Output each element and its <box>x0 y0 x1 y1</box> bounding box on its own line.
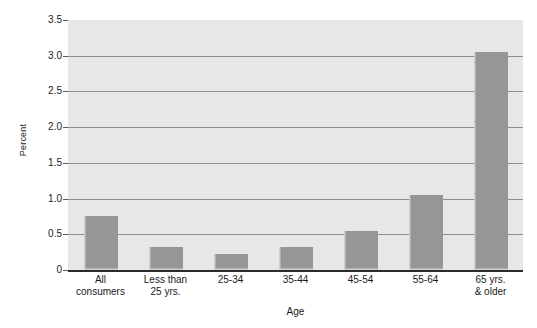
y-tick-label: 1.5 <box>48 158 62 168</box>
bar[interactable] <box>474 52 508 270</box>
y-axis-title: Percent <box>14 0 32 280</box>
bar[interactable] <box>84 216 118 270</box>
x-tick-label: 55-64 <box>393 274 458 286</box>
x-axis-line <box>68 270 523 272</box>
bar[interactable] <box>149 247 183 270</box>
bar-chart: Percent 00.51.01.52.02.53.03.5 All consu… <box>0 0 537 328</box>
plot-area <box>68 20 523 270</box>
y-tick-label: 3.5 <box>48 15 62 25</box>
y-tick-label: 2.5 <box>48 86 62 96</box>
x-tick-label: Less than 25 yrs. <box>133 274 198 298</box>
bar-slot <box>458 20 523 270</box>
bars-layer <box>68 20 523 270</box>
bar-slot <box>263 20 328 270</box>
bar-slot <box>133 20 198 270</box>
bar[interactable] <box>214 254 248 270</box>
x-tick-label: 45-54 <box>328 274 393 286</box>
y-tick-label: 3.0 <box>48 51 62 61</box>
bar-slot <box>328 20 393 270</box>
bar[interactable] <box>409 195 443 270</box>
x-axis-tick-labels: All consumersLess than 25 yrs.25-3435-44… <box>68 274 523 308</box>
bar-slot <box>68 20 133 270</box>
x-tick-label: 35-44 <box>263 274 328 286</box>
bar[interactable] <box>344 231 378 270</box>
x-tick-label: 65 yrs. & older <box>458 274 523 298</box>
y-tick-label: 1.0 <box>48 194 62 204</box>
x-axis-title: Age <box>68 306 523 317</box>
bar-slot <box>198 20 263 270</box>
bar-slot <box>393 20 458 270</box>
x-tick-label: 25-34 <box>198 274 263 286</box>
y-tick-label: 0.5 <box>48 229 62 239</box>
x-tick-label: All consumers <box>68 274 133 298</box>
y-axis-tick-labels: 00.51.01.52.02.53.03.5 <box>34 20 68 270</box>
y-axis-title-text: Percent <box>18 124 28 156</box>
bar[interactable] <box>279 247 313 270</box>
y-tick-label: 0 <box>56 265 62 275</box>
y-tick-label: 2.0 <box>48 122 62 132</box>
